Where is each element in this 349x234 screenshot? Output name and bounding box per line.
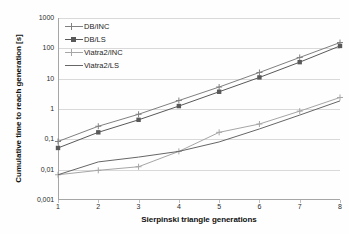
legend-item-label: Viatra2/INC — [84, 48, 123, 57]
data-point-marker — [136, 111, 142, 117]
data-point-marker — [56, 146, 60, 150]
data-point-marker — [176, 98, 182, 104]
data-point-marker — [257, 75, 261, 79]
legend-item-db-ls[interactable]: DB/LS — [64, 33, 156, 46]
legend-item-viatra2-inc[interactable]: Viatra2/INC — [64, 46, 156, 59]
legend-item-label: Viatra2/LS — [84, 61, 119, 70]
data-point-marker — [96, 130, 100, 134]
legend-swatch-icon — [64, 21, 84, 32]
chart-legend: DB/INCDB/LSViatra2/INCViatra2/LS — [64, 20, 156, 72]
legend-item-label: DB/LS — [84, 35, 106, 44]
chart-container: Cumulative time to reach generation [s] … — [0, 0, 349, 234]
data-point-marker — [216, 84, 222, 90]
legend-swatch-icon — [64, 34, 84, 45]
data-point-marker — [256, 69, 262, 75]
legend-item-db-inc[interactable]: DB/INC — [64, 20, 156, 33]
data-point-marker — [256, 121, 262, 127]
data-point-marker — [216, 129, 222, 135]
data-point-marker — [177, 104, 181, 108]
data-point-marker — [95, 123, 101, 129]
data-point-marker — [217, 90, 221, 94]
data-point-marker — [337, 94, 343, 100]
data-point-marker — [297, 54, 303, 60]
data-point-marker — [136, 164, 142, 170]
data-series-layer — [0, 0, 349, 234]
data-point-marker — [297, 108, 303, 114]
series-line — [58, 97, 340, 174]
data-point-marker — [338, 44, 342, 48]
legend-item-label: DB/INC — [84, 22, 109, 31]
data-point-marker — [95, 167, 101, 173]
legend-item-viatra2-ls[interactable]: Viatra2/LS — [64, 59, 156, 72]
legend-swatch-icon — [64, 60, 84, 71]
data-point-marker — [298, 60, 302, 64]
data-point-marker — [136, 118, 140, 122]
legend-swatch-icon — [64, 47, 84, 58]
series-viatra2-inc — [55, 94, 343, 177]
data-point-marker — [55, 138, 61, 144]
